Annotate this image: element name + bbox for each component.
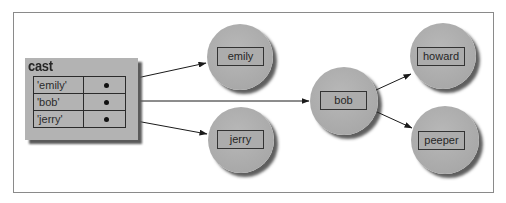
cast-row: 'jerry' — [34, 111, 126, 128]
node-howard-label: howard — [417, 47, 465, 66]
node-emily-label: emily — [217, 47, 264, 66]
node-jerry-label: jerry — [217, 130, 264, 149]
cast-value — [83, 77, 125, 94]
pointer-dot-icon — [104, 83, 109, 88]
arrow-howard — [376, 74, 411, 90]
cast-value — [83, 94, 125, 111]
cast-dictionary: cast 'emily' 'bob' 'jerry' — [25, 58, 138, 140]
node-bob-label: bob — [320, 91, 367, 110]
node-peeper-label: peeper — [418, 131, 465, 150]
cast-key: 'emily' — [34, 77, 84, 94]
cast-title: cast — [28, 58, 53, 74]
cast-value — [83, 111, 125, 128]
pointer-dot-icon — [104, 117, 109, 122]
cast-table: 'emily' 'bob' 'jerry' — [33, 76, 126, 128]
pointer-dot-icon — [104, 100, 109, 105]
cast-row: 'emily' — [34, 77, 126, 94]
arrow-peeper — [377, 112, 412, 128]
diagram-canvas: cast 'emily' 'bob' 'jerry' emily jerry b… — [0, 0, 506, 203]
cast-key: 'jerry' — [34, 111, 84, 128]
cast-key: 'bob' — [34, 94, 84, 111]
cast-row: 'bob' — [34, 94, 126, 111]
